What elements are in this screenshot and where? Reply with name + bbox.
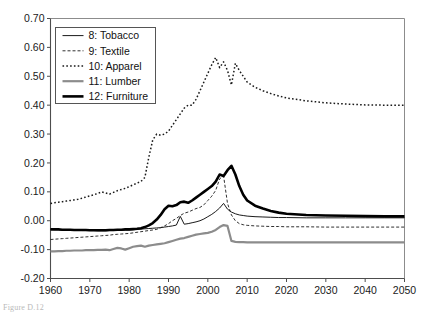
y-axis-tick-label: 0.50 xyxy=(24,70,45,82)
y-axis-tick-label: -0.10 xyxy=(21,243,45,255)
series-line-furniture xyxy=(51,166,405,230)
figure-container: -0.20-0.100.000.100.200.300.400.500.600.… xyxy=(0,0,423,312)
y-axis-tick-label: 0.10 xyxy=(24,185,45,197)
line-chart: -0.20-0.100.000.100.200.300.400.500.600.… xyxy=(0,0,423,312)
x-axis-tick-label: 2020 xyxy=(275,284,299,296)
y-axis-tick-label: 0.70 xyxy=(24,12,45,24)
y-axis-tick-label: 0.00 xyxy=(24,214,45,226)
y-axis-tick-label: 0.40 xyxy=(24,99,45,111)
legend-label-lumber: 11: Lumber xyxy=(89,75,142,87)
y-axis-tick-label: 0.20 xyxy=(24,157,45,169)
legend-label-tobacco: 8: Tobacco xyxy=(89,29,140,41)
y-axis-tick-label: 0.60 xyxy=(24,41,45,53)
x-axis-tick-label: 2010 xyxy=(235,284,259,296)
legend-label-furniture: 12: Furniture xyxy=(89,90,149,102)
x-axis-tick-label: 1980 xyxy=(117,284,141,296)
x-axis-tick-label: 1960 xyxy=(39,284,63,296)
x-axis-tick-label: 2030 xyxy=(314,284,338,296)
x-axis-tick-label: 1970 xyxy=(78,284,102,296)
x-axis-tick-label: 1990 xyxy=(157,284,181,296)
y-axis-tick-label: -0.20 xyxy=(21,272,45,284)
chart-legend: 8: Tobacco9: Textile10: Apparel11: Lumbe… xyxy=(56,28,156,104)
x-axis-tick-label: 2040 xyxy=(353,284,377,296)
y-axis-tick-label: 0.30 xyxy=(24,128,45,140)
legend-label-apparel: 10: Apparel xyxy=(89,60,142,72)
legend-label-textile: 9: Textile xyxy=(89,45,130,57)
figure-caption: Figure D.12 xyxy=(3,303,44,312)
x-axis-tick-label: 2000 xyxy=(196,284,220,296)
x-axis-tick-label: 2050 xyxy=(393,284,417,296)
